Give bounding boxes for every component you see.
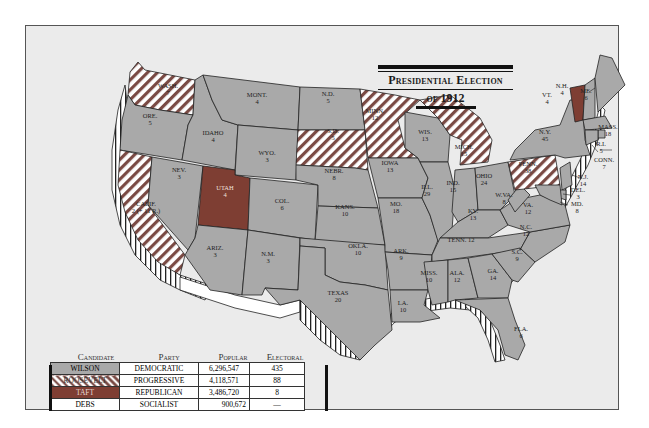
title-line-1: Presidential Election	[378, 71, 513, 90]
legend-popular: 3,486,720	[199, 387, 250, 399]
legend-row-roosevelt: ROOSEVELT PROGRESSIVE 4,118,571 88	[51, 375, 305, 387]
legend-candidate: WILSON	[51, 363, 120, 375]
legend-right-bar	[325, 365, 328, 411]
states	[118, 55, 625, 360]
label-tenn: TENN. 12	[447, 236, 474, 243]
legend-popular: 900,672	[199, 399, 250, 411]
legend-electoral: 8	[250, 387, 305, 399]
legend-party: DEMOCRATIC	[120, 363, 199, 375]
legend-candidate: DEBS	[51, 399, 120, 411]
legend-header-party: Party	[130, 352, 208, 362]
state-me	[595, 55, 625, 112]
label-conn: CONN.7	[594, 156, 614, 170]
legend-electoral: 435	[250, 363, 305, 375]
title-bar-bottom	[416, 106, 476, 109]
label-calif: CALIF.2 (+ 11 R.)	[132, 200, 160, 215]
state-ohio	[475, 162, 515, 210]
legend-electoral: 88	[250, 375, 305, 387]
state-kans	[315, 206, 385, 245]
state-nm	[242, 230, 300, 295]
legend-popular: 6,296,547	[199, 363, 250, 375]
legend-party: PROGRESSIVE	[120, 375, 199, 387]
legend-left-bar	[49, 365, 52, 411]
legend-popular: 4,118,571	[199, 375, 250, 387]
legend-candidate: ROOSEVELT	[51, 375, 120, 387]
label-md: MD.8	[571, 200, 583, 214]
legend-electoral: —	[250, 399, 305, 411]
legend-header-candidate: Candidate	[62, 352, 130, 362]
legend-table: WILSON DEMOCRATIC 6,296,547 435 ROOSEVEL…	[50, 362, 305, 411]
map-title: Presidential Election of 1912	[378, 65, 513, 109]
legend-row-wilson: WILSON DEMOCRATIC 6,296,547 435	[51, 363, 305, 375]
legend-headers: Candidate Party Popular Electoral	[62, 352, 312, 362]
label-vt: VT.4	[542, 91, 552, 105]
legend-party: REPUBLICAN	[120, 387, 199, 399]
label-nh: N.H.4	[556, 82, 569, 96]
legend: Candidate Party Popular Electoral WILSON…	[22, 352, 312, 411]
legend-party: SOCIALIST	[120, 399, 199, 411]
legend-row-debs: DEBS SOCIALIST 900,672 —	[51, 399, 305, 411]
legend-row-taft: TAFT REPUBLICAN 3,486,720 8	[51, 387, 305, 399]
legend-header-popular: Popular	[208, 352, 258, 362]
legend-candidate: TAFT	[51, 387, 120, 399]
legend-header-electoral: Electoral	[258, 352, 312, 362]
title-line-2: of 1912	[378, 91, 513, 106]
title-bar-top	[378, 65, 513, 69]
label-nj: N.J.14	[578, 173, 589, 187]
